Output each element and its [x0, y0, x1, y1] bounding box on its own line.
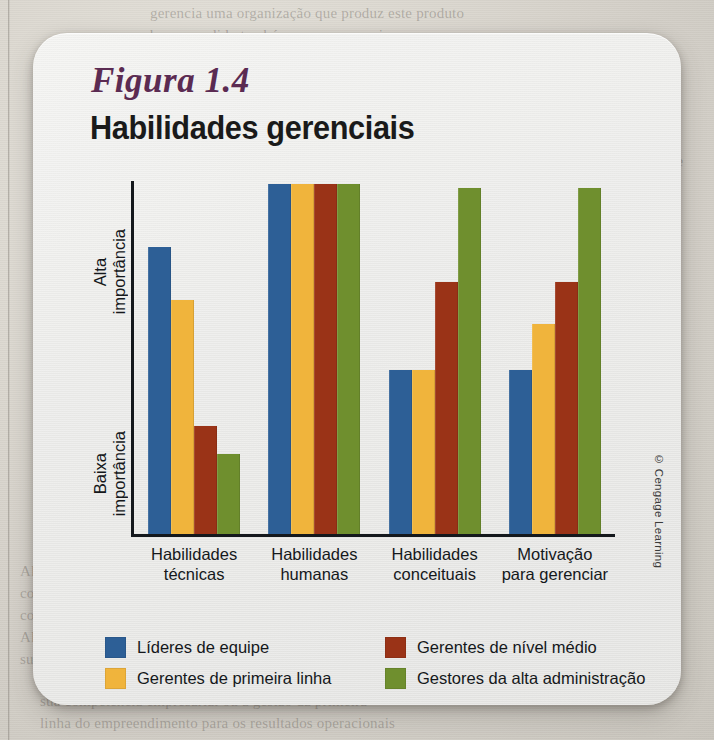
figure-title: Habilidades gerenciais: [90, 109, 414, 147]
bar: [217, 454, 240, 535]
y-axis-high-label: Alta importância: [91, 229, 129, 314]
legend-item: Gerentes de nível médio: [385, 637, 645, 658]
bar: [555, 282, 578, 534]
bar: [412, 370, 435, 535]
legend-label: Líderes de equipe: [137, 638, 269, 657]
bar-group: [148, 184, 240, 534]
x-axis-label: Habilidadestécnicas: [134, 545, 254, 584]
page-edge: [8, 0, 10, 740]
bar: [509, 370, 532, 535]
y-axis-low-label: Baixa importância: [91, 431, 129, 516]
bar-group: [509, 184, 601, 534]
bar-groups: [134, 184, 615, 534]
bar: [194, 426, 217, 535]
bar: [337, 184, 360, 534]
bar-group: [268, 184, 360, 534]
legend-item: Gerentes de primeira linha: [105, 668, 385, 689]
legend-swatch: [105, 668, 126, 689]
bar: [148, 247, 171, 534]
bar: [532, 324, 555, 534]
legend-label: Gerentes de nível médio: [417, 638, 597, 657]
bar: [458, 188, 481, 535]
bar: [578, 188, 601, 535]
bar: [389, 370, 412, 535]
legend-swatch: [385, 637, 406, 658]
legend-swatch: [105, 637, 126, 658]
bar-group: [389, 184, 481, 534]
bar: [435, 282, 458, 534]
legend-swatch: [385, 668, 406, 689]
bar: [268, 184, 291, 534]
x-axis-label: Habilidadesconceituais: [375, 545, 495, 584]
x-axis-labels: HabilidadestécnicasHabilidadeshumanasHab…: [134, 545, 615, 584]
chart-plot-area: [131, 181, 611, 537]
copyright-credit: © Cengage Learning: [653, 453, 665, 568]
legend-label: Gerentes de primeira linha: [137, 669, 331, 688]
legend-item: Gestores da alta administração: [385, 668, 645, 689]
figure-number-label: Figura 1.4: [91, 61, 250, 101]
legend-label: Gestores da alta administração: [417, 669, 645, 688]
bar: [171, 300, 194, 535]
chart-legend: Líderes de equipeGerentes de nível médio…: [105, 637, 645, 689]
bar: [291, 184, 314, 534]
bar: [314, 184, 337, 534]
legend-item: Líderes de equipe: [105, 637, 385, 658]
x-axis-label: Motivaçãopara gerenciar: [495, 545, 615, 584]
book-page: gerencia uma organização que produz este…: [0, 0, 714, 740]
figure-card: Figura 1.4 Habilidades gerenciais Alta i…: [33, 33, 681, 705]
x-axis-line: [131, 534, 615, 537]
x-axis-label: Habilidadeshumanas: [254, 545, 374, 584]
